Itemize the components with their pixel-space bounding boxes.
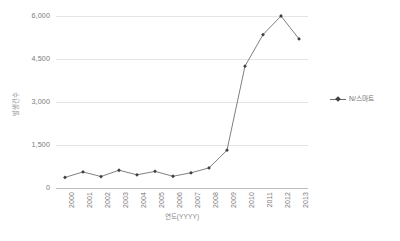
x-axis-tick-2004: 2004 — [140, 192, 147, 208]
data-point-2005 — [153, 169, 157, 173]
x-axis-tick-2013: 2013 — [302, 192, 309, 208]
y-axis-tick-0: 0 — [46, 184, 50, 191]
data-point-2001 — [81, 170, 85, 174]
legend-label-n-smart: N/스마트 — [349, 96, 374, 103]
data-point-2004 — [135, 173, 139, 177]
chart-legend: N/스마트 — [330, 96, 374, 103]
x-axis-tick-2011: 2011 — [266, 192, 273, 207]
x-axis-tick-2000: 2000 — [68, 192, 75, 208]
data-point-2003 — [117, 168, 121, 172]
x-axis-tick-2006: 2006 — [176, 192, 183, 208]
plot-area: 01,5003,0004,5006,000 200020012002200320… — [56, 16, 308, 188]
y-axis-tick-6000: 6,000 — [32, 12, 51, 19]
y-axis-tick-4500: 4,500 — [32, 55, 51, 62]
legend-marker-icon — [330, 96, 346, 103]
x-axis-title: 연도(YYYY) — [56, 214, 308, 221]
x-axis-tick-2012: 2012 — [284, 192, 291, 208]
y-axis-title: 발생건수 — [13, 92, 19, 117]
line-chart: 발생건수 01,5003,0004,5006,000 2000200120022… — [0, 0, 400, 241]
x-axis-tick-2010: 2010 — [248, 192, 255, 208]
gridline-0 — [56, 188, 308, 189]
x-axis-tick-2001: 2001 — [86, 192, 93, 208]
y-axis-tick-3000: 3,000 — [32, 98, 51, 105]
x-axis-tick-2007: 2007 — [194, 192, 201, 208]
data-point-2006 — [171, 174, 175, 178]
series-line-n-smart — [56, 16, 308, 188]
data-point-2007 — [189, 171, 193, 175]
x-axis-tick-2003: 2003 — [122, 192, 129, 208]
x-axis-tick-2002: 2002 — [104, 192, 111, 208]
data-point-2002 — [99, 175, 103, 179]
x-axis-tick-2009: 2009 — [230, 192, 237, 208]
x-axis-tick-2005: 2005 — [158, 192, 165, 208]
x-axis-tick-2008: 2008 — [212, 192, 219, 208]
y-axis-tick-1500: 1,500 — [32, 141, 51, 148]
data-point-2000 — [63, 175, 67, 179]
